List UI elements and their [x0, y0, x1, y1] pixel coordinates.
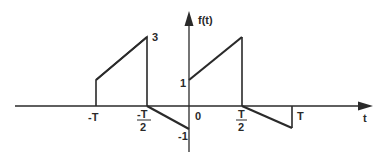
ramp-right-up [189, 37, 242, 80]
x-tick-T-half: T 2 [236, 108, 247, 133]
x-tick-T-half-num: T [238, 108, 245, 120]
x-tick-zero: 0 [195, 110, 201, 122]
ramp-left-down [147, 106, 189, 129]
ramp-left-up [96, 37, 147, 80]
y-tick-1: 1 [180, 77, 186, 89]
ramp-right-down [242, 106, 292, 128]
x-axis [15, 102, 373, 111]
x-tick-neg-T-half-num: -T [137, 108, 148, 120]
waveform-diagram: f(t) t 3 1 -1 -T -T 2 0 T 2 T [0, 0, 384, 156]
x-axis-arrow-icon [358, 102, 373, 111]
x-tick-neg-T: -T [88, 111, 99, 123]
y-tick-3: 3 [152, 31, 158, 43]
x-axis-label: t [363, 112, 367, 124]
y-axis-arrow-icon [185, 11, 194, 26]
y-axis-label: f(t) [198, 14, 213, 26]
pulse-left [96, 37, 147, 106]
waveform [96, 37, 292, 129]
x-tick-T-half-den: 2 [238, 121, 244, 133]
x-tick-T: T [297, 110, 304, 122]
y-tick-neg1: -1 [178, 130, 188, 142]
x-tick-neg-T-half: -T 2 [137, 108, 151, 133]
x-tick-neg-T-half-den: 2 [140, 121, 146, 133]
